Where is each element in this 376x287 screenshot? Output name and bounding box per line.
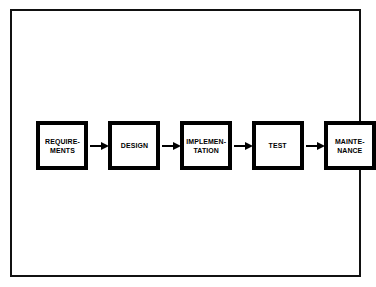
stage-label-requirements-line-2: MENTS [50, 146, 75, 155]
stage-label-implementation: IMPLEMEN- TATION [186, 137, 226, 155]
stage-label-maintenance-line-1: MAINTE- [335, 137, 365, 146]
stage-box-implementation[interactable]: IMPLEMEN- TATION [180, 121, 232, 170]
stage-label-requirements-line-1: REQUIRE- [45, 137, 80, 146]
stage-label-implementation-line-2: TATION [193, 146, 218, 155]
arrow-test-to-maintenance [306, 143, 326, 148]
stage-box-design[interactable]: DESIGN [108, 121, 160, 170]
stage-box-test[interactable]: TEST [252, 121, 304, 170]
stage-label-maintenance: MAINTE- NANCE [335, 137, 365, 155]
arrow-requirements-to-design [90, 143, 110, 148]
process-flow-row: REQUIRE- MENTS DESIGN IM [36, 121, 360, 170]
stage-label-design-line-1: DESIGN [120, 141, 147, 150]
stage-label-design: DESIGN [120, 141, 147, 150]
stage-label-test: TEST [269, 141, 287, 150]
stage-label-implementation-line-1: IMPLEMEN- [186, 137, 226, 146]
arrow-implementation-to-test [234, 143, 254, 148]
figure-outer-frame: REQUIRE- MENTS DESIGN IM [10, 9, 361, 277]
stage-box-maintenance[interactable]: MAINTE- NANCE [324, 121, 376, 170]
arrow-design-to-implementation [162, 143, 182, 148]
stage-label-maintenance-line-2: NANCE [337, 146, 362, 155]
stage-label-requirements: REQUIRE- MENTS [45, 137, 80, 155]
stage-box-requirements[interactable]: REQUIRE- MENTS [36, 121, 88, 170]
stage-label-test-line-1: TEST [269, 141, 287, 150]
